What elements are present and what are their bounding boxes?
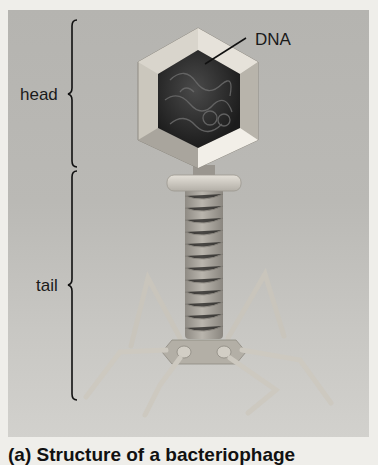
- tail-sheath: [185, 187, 223, 339]
- tail-brace: [68, 171, 77, 400]
- tail-label: tail: [36, 277, 58, 294]
- head-brace: [68, 20, 77, 167]
- figure-caption: (a) Structure of a bacteriophage: [8, 445, 295, 464]
- head-capsid: [138, 28, 258, 168]
- collar: [167, 175, 241, 191]
- head-label: head: [20, 86, 58, 103]
- dna-label: DNA: [255, 31, 291, 48]
